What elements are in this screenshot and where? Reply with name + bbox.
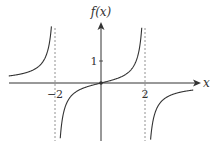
- curve-right-branch: [151, 90, 194, 140]
- origin-point: [99, 81, 103, 85]
- curve-left-branch: [9, 26, 52, 76]
- y-axis-label: f(x): [90, 5, 112, 19]
- y-tick-label-1: 1: [91, 55, 98, 68]
- function-graph: f(x) x −2 2 1: [0, 0, 212, 147]
- x-tick-label-2: 2: [142, 88, 149, 101]
- x-tick-label-neg2: −2: [47, 88, 63, 101]
- x-axis-label: x: [203, 76, 210, 90]
